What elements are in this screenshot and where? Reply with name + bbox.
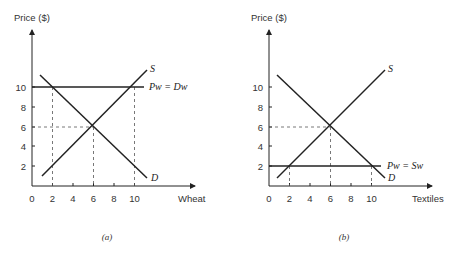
demand-label: D (150, 172, 159, 183)
world-price-label: Pw = Sw (386, 160, 424, 171)
y-tick-label: 6 (21, 122, 26, 133)
demand-label: D (387, 172, 396, 183)
x-axis-title: Textiles (412, 193, 444, 204)
y-tick-label: 10 (15, 82, 26, 93)
panel-a: Price ($) 2 4 6 8 10 0 2 4 6 (14, 12, 206, 242)
y-tick-label: 2 (21, 161, 26, 172)
x-tick-label: 10 (129, 193, 140, 204)
figure: Price ($) 2 4 6 8 10 0 2 4 6 (0, 0, 457, 254)
x-tick-label: 6 (328, 193, 333, 204)
y-tick-label: 4 (258, 141, 263, 152)
x-tick-label: 0 (266, 193, 271, 204)
y-axis-title: Price ($) (14, 12, 50, 23)
x-tick-label: 4 (307, 193, 312, 204)
x-tick-label: 0 (29, 193, 34, 204)
y-tick-label: 6 (258, 122, 263, 133)
y-tick-label: 4 (21, 141, 26, 152)
y-tick-label: 10 (252, 82, 263, 93)
x-axis-title: Wheat (178, 193, 206, 204)
panel-b: Price ($) 2 4 6 8 10 0 2 4 6 8 10 (251, 12, 444, 242)
x-tick-label: 2 (50, 193, 55, 204)
y-tick-label: 2 (258, 161, 263, 172)
panel-caption: (b) (339, 232, 350, 242)
guide-lines (269, 127, 372, 186)
supply-label: S (388, 63, 393, 74)
x-tick-label: 2 (287, 193, 292, 204)
supply-curve (42, 70, 147, 176)
y-tick-label: 8 (258, 102, 263, 113)
y-tick-label: 8 (21, 102, 26, 113)
y-axis-title: Price ($) (251, 12, 287, 23)
x-tick-label: 8 (111, 193, 116, 204)
world-price-label: Pw = Dw (148, 81, 188, 92)
x-tick-label: 6 (91, 193, 96, 204)
supply-label: S (150, 63, 155, 74)
x-tick-label: 10 (366, 193, 377, 204)
panel-caption: (a) (102, 232, 113, 242)
x-tick-label: 8 (348, 193, 353, 204)
x-tick-label: 4 (70, 193, 75, 204)
